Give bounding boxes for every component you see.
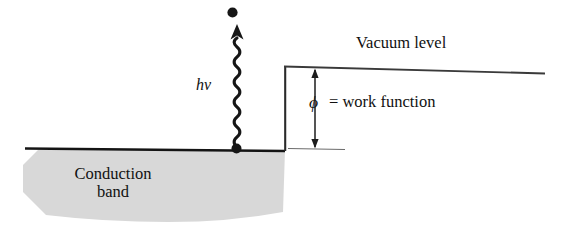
vacuum-level-label: Vacuum level [356, 34, 446, 52]
conduction-band-label-line2: band [58, 183, 168, 201]
conduction-band-label-line1: Conduction [75, 164, 152, 183]
vacuum-level-line [284, 67, 545, 74]
figure-root: Vacuum level hν ϕ = work function Conduc… [0, 0, 564, 231]
emitted-electron-dot [227, 7, 237, 17]
conduction-band-label: Conductionband [58, 165, 168, 202]
photon-energy-label: hν [196, 76, 211, 94]
phi-symbol-label: ϕ [309, 92, 318, 113]
work-function-label: = work function [329, 93, 435, 111]
photon-wave-line [234, 38, 240, 147]
band-level-reference-line [288, 149, 345, 150]
surface-electron-dot [232, 144, 242, 154]
